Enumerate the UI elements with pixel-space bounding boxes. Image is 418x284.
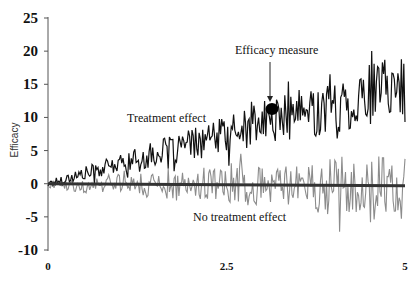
x-tick-label: 5 (402, 260, 408, 272)
efficacy-chart: 2520151050-5-10 02.55 Efficacy Efficacy … (0, 0, 418, 284)
x-tick-label: 0 (45, 260, 51, 272)
y-tick-label: 15 (23, 76, 38, 92)
y-tick-label: 25 (23, 10, 38, 26)
y-ticks: 2520151050-5-10 (18, 10, 48, 258)
y-tick-label: 10 (23, 109, 38, 125)
y-tick-label: 20 (23, 43, 38, 59)
treatment-effect-label: Treatment effect (127, 111, 207, 125)
y-tick-label: 0 (31, 176, 39, 192)
baseline-line (48, 184, 405, 186)
arrow-head-icon (267, 96, 273, 102)
y-tick-label: 5 (31, 143, 39, 159)
x-ticks: 02.55 (45, 260, 408, 272)
no-treatment-effect-label: No treatment effect (193, 210, 287, 224)
y-tick-label: -10 (18, 242, 38, 258)
efficacy-measure-label: Efficacy measure (235, 43, 318, 57)
y-axis-label: Efficacy (9, 123, 20, 158)
treatment-series (48, 51, 405, 186)
y-tick-label: -5 (26, 209, 39, 225)
x-tick-label: 2.5 (220, 260, 234, 272)
efficacy-measure-marker (266, 103, 279, 115)
